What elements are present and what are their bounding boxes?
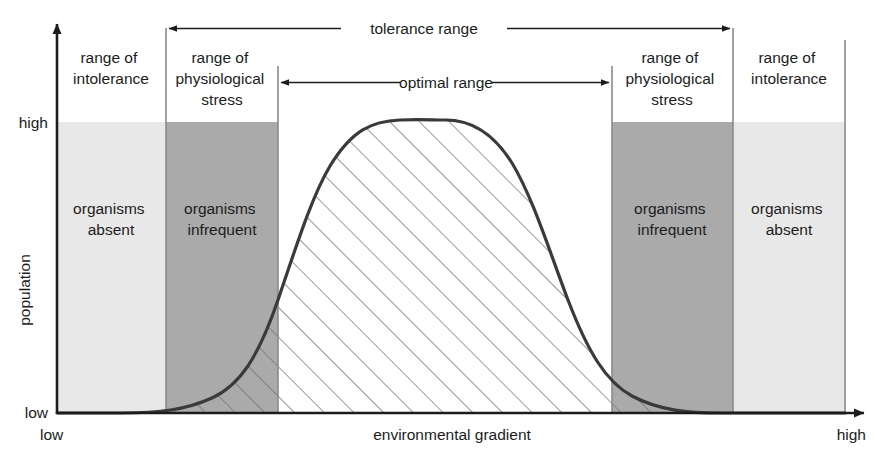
zone-right-stress-body-line2: infrequent (638, 221, 708, 238)
zone-left-stress-body-line1: organisms (184, 200, 256, 217)
optimal-range-annotation: optimal range (281, 74, 609, 91)
zone-right-intolerance-body-line1: organisms (751, 200, 823, 217)
zone-left-intolerance-top-line1: range of (80, 49, 138, 66)
zone-left-stress-top-line3: stress (201, 91, 243, 108)
y-axis-tick-low: low (25, 404, 49, 421)
diagram-svg: tolerance range optimal range range of i… (0, 0, 875, 450)
x-axis-tick-low: low (40, 426, 64, 443)
zone-right-intolerance-fill (733, 122, 845, 413)
zone-right-stress-fill (612, 122, 733, 413)
zone-right-stress-body-line1: organisms (634, 200, 706, 217)
zone-left-intolerance-body-line1: organisms (73, 200, 145, 217)
zone-right-intolerance-top-line2: intolerance (751, 70, 827, 87)
zone-right-stress-top-line2: physiological (625, 70, 714, 87)
zone-right-intolerance-body-line2: absent (766, 221, 813, 238)
zone-right-stress-top-line1: range of (641, 49, 699, 66)
zone-left-intolerance-top-line2: intolerance (73, 70, 149, 87)
zone-right-intolerance-top-label: range of intolerance (751, 49, 827, 87)
zone-left-stress-top-line1: range of (191, 49, 249, 66)
tolerance-range-label: tolerance range (370, 20, 478, 37)
zone-right-intolerance-top-line1: range of (758, 49, 816, 66)
y-axis-tick-high: high (19, 114, 48, 131)
y-axis-title: population (16, 254, 33, 326)
x-axis-tick-high: high (837, 426, 866, 443)
zone-right-stress-top-label: range of physiological stress (625, 49, 718, 108)
x-axis-title: environmental gradient (373, 426, 531, 443)
tolerance-range-diagram: tolerance range optimal range range of i… (0, 0, 875, 450)
zone-left-stress-top-label: range of physiological stress (175, 49, 268, 108)
zone-left-intolerance-top-label: range of intolerance (73, 49, 149, 87)
zone-left-intolerance-fill (57, 122, 166, 413)
tolerance-range-annotation: tolerance range (169, 20, 730, 37)
zone-left-intolerance-body-line2: absent (88, 221, 135, 238)
zone-left-stress-top-line2: physiological (175, 70, 264, 87)
zone-right-stress-top-line3: stress (651, 91, 693, 108)
zone-left-stress-body-line2: infrequent (188, 221, 258, 238)
optimal-range-label: optimal range (399, 74, 493, 91)
